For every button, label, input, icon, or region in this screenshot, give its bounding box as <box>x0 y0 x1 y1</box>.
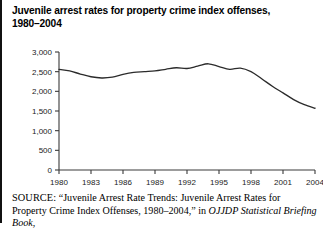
y-axis-tick-label: 2,000 <box>32 87 53 96</box>
data-series-group <box>59 64 315 108</box>
page-title-line-1: Juvenile arrest rates for property crime… <box>12 5 270 16</box>
y-axis-tick-label: 3,000 <box>32 48 53 57</box>
source-note: SOURCE: “Juvenile Arrest Rate Trends: Ju… <box>12 192 317 230</box>
x-axis-tick-label: 1995 <box>210 178 228 187</box>
source-text-part-2: , <box>33 217 36 228</box>
page-title: Juvenile arrest rates for property crime… <box>12 4 312 30</box>
y-axis-tick-label: 1,000 <box>32 127 53 136</box>
x-axis-tick-label: 1980 <box>50 178 68 187</box>
data-line <box>59 64 315 108</box>
line-chart: 05001,0001,5002,0002,5003,000 1980198319… <box>2 40 323 192</box>
y-axis-tick-label: 500 <box>39 146 53 155</box>
x-axis-tick-label: 1983 <box>82 178 100 187</box>
y-axis: 05001,0001,5002,0002,5003,000 <box>32 48 59 175</box>
chart-area: 05001,0001,5002,0002,5003,000 1980198319… <box>2 40 323 192</box>
x-axis-tick-label: 1998 <box>242 178 260 187</box>
source-label: SOURCE: <box>12 192 56 203</box>
x-axis-tick-label: 1989 <box>146 178 164 187</box>
x-axis-tick-label: 1992 <box>178 178 196 187</box>
x-axis-tick-label: 1986 <box>114 178 132 187</box>
x-axis-tick-label: 2001 <box>274 178 292 187</box>
y-axis-tick-label: 2,500 <box>32 68 53 77</box>
x-axis: 198019831986198919921995199820012004 <box>50 170 323 187</box>
page-title-line-2: 1980–2004 <box>12 18 62 29</box>
x-axis-tick-label: 2004 <box>306 178 323 187</box>
y-axis-tick-label: 1,500 <box>32 107 53 116</box>
y-axis-tick-label: 0 <box>48 166 53 175</box>
